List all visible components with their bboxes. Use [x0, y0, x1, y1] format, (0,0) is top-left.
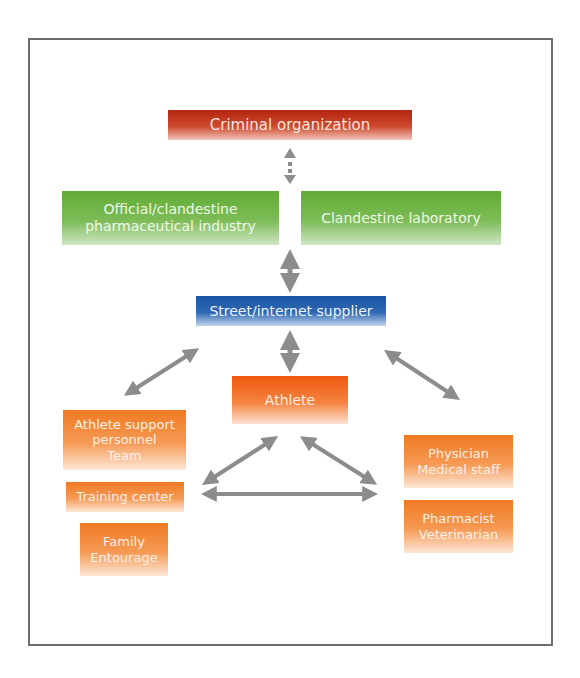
node-label: Street/internet supplier: [209, 303, 372, 320]
node-label: Athlete support: [74, 417, 175, 433]
node-pharmaceutical-industry: Official/clandestine pharmaceutical indu…: [62, 191, 279, 245]
node-label: Veterinarian: [419, 527, 498, 543]
node-athlete-support-personnel: Athlete support personnel Team: [63, 410, 186, 470]
node-label: Clandestine laboratory: [321, 210, 481, 227]
node-pharmacist-veterinarian: Pharmacist Veterinarian: [404, 500, 513, 553]
node-label: Training center: [76, 489, 173, 505]
node-label: Team: [107, 448, 141, 464]
node-label: personnel: [92, 432, 156, 448]
node-label: pharmaceutical industry: [85, 218, 256, 235]
node-training-center: Training center: [66, 482, 184, 512]
node-label: Family: [103, 534, 145, 550]
node-criminal-organization: Criminal organization: [168, 110, 412, 140]
node-label: Criminal organization: [210, 116, 371, 134]
node-label: Athlete: [265, 392, 315, 409]
node-label: Physician: [428, 446, 489, 462]
node-athlete: Athlete: [232, 376, 348, 424]
node-clandestine-laboratory: Clandestine laboratory: [301, 191, 501, 245]
node-label: Entourage: [90, 550, 157, 566]
node-label: Medical staff: [417, 462, 500, 478]
node-street-internet-supplier: Street/internet supplier: [196, 296, 386, 326]
node-label: Pharmacist: [422, 511, 494, 527]
node-physician-medical-staff: Physician Medical staff: [404, 435, 513, 488]
node-label: Official/clandestine: [103, 201, 237, 218]
node-family-entourage: Family Entourage: [80, 523, 168, 576]
